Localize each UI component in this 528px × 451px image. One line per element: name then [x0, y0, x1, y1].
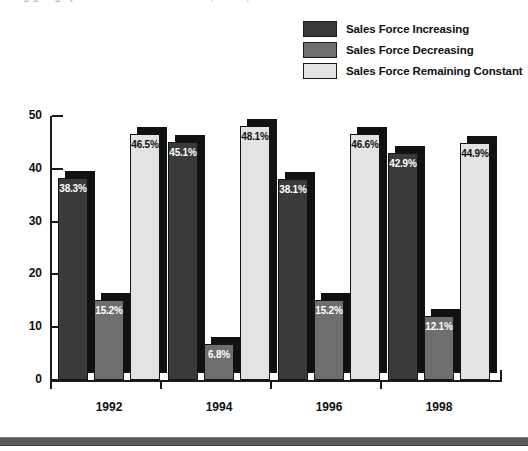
bar[interactable]: 45.1% [168, 142, 198, 380]
bar-value-label: 38.3% [59, 183, 87, 194]
bar-value-label: 46.6% [351, 139, 379, 150]
bar[interactable]: 46.6% [350, 134, 380, 380]
x-axis-line [50, 380, 502, 382]
x-axis-tick-label: 1996 [278, 400, 380, 414]
y-axis-line [50, 116, 52, 382]
bar-value-label: 6.8% [205, 349, 233, 360]
y-axis-tick-label: 50 [14, 108, 42, 122]
bar-value-label: 48.1% [241, 131, 269, 142]
bar-value-label: 46.5% [131, 139, 159, 150]
bar[interactable]: 46.5% [130, 134, 160, 380]
bar[interactable]: 15.2% [314, 300, 344, 380]
x-axis-tick-label: 1994 [168, 400, 270, 414]
bar[interactable]: 15.2% [94, 300, 124, 380]
x-axis-tick [380, 382, 382, 389]
y-axis-tick [52, 168, 63, 170]
x-axis-end-cap [500, 370, 502, 382]
bar-value-label: 38.1% [279, 184, 307, 195]
footer-rule-shadow [0, 445, 528, 446]
x-axis-tick [160, 382, 162, 389]
plot-area: 5040302010038.3%15.2%46.5%199245.1%6.8%4… [0, 0, 528, 451]
bar-value-label: 45.1% [169, 147, 197, 158]
bar[interactable]: 38.3% [58, 178, 88, 380]
x-axis-tick [50, 382, 52, 389]
bar-value-label: 44.9% [461, 148, 489, 159]
y-axis-tick [52, 115, 63, 117]
y-axis-tick-label: 0 [14, 372, 42, 386]
bar[interactable]: 12.1% [424, 316, 454, 380]
bar-value-label: 12.1% [425, 321, 453, 332]
y-axis-tick-label: 40 [14, 161, 42, 175]
bar[interactable]: 48.1% [240, 126, 270, 380]
bar[interactable]: 42.9% [388, 153, 418, 380]
bar[interactable]: 44.9% [460, 143, 490, 380]
bar-value-label: 15.2% [315, 305, 343, 316]
bar-value-label: 42.9% [389, 158, 417, 169]
bar[interactable]: 38.1% [278, 179, 308, 380]
bar[interactable]: 6.8% [204, 344, 234, 380]
x-axis-tick [270, 382, 272, 389]
x-axis-tick-label: 1992 [58, 400, 160, 414]
y-axis-tick-label: 10 [14, 319, 42, 333]
bar-value-label: 15.2% [95, 305, 123, 316]
chart-figure: ing going up . . . . . . . . . . . . . .… [0, 0, 528, 451]
y-axis-tick-label: 30 [14, 214, 42, 228]
y-axis-tick-label: 20 [14, 266, 42, 280]
x-axis-tick-label: 1998 [388, 400, 490, 414]
footer-rule-highlight [0, 437, 528, 438]
